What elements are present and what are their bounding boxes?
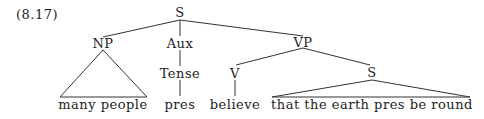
- example-number: (8.17): [16, 7, 58, 22]
- node-aux: Aux: [167, 37, 194, 51]
- node-vp: VP: [293, 36, 312, 50]
- node-tense: Tense: [160, 67, 201, 81]
- leaf-embedded-clause: that the earth pres be round: [271, 98, 473, 112]
- leaf-many-people: many people: [58, 98, 147, 112]
- leaf-believe: believe: [210, 98, 261, 112]
- node-v: V: [230, 67, 240, 81]
- leaf-pres: pres: [165, 98, 196, 112]
- node-s-embedded: S: [367, 66, 376, 80]
- node-np: NP: [92, 37, 113, 51]
- node-s-root: S: [175, 6, 184, 20]
